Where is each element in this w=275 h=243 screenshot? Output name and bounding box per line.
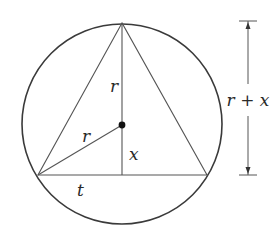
label-slant-radius: r: [82, 126, 91, 146]
arrow-down-icon: [246, 167, 251, 174]
label-half-base: t: [77, 180, 84, 200]
label-center-to-base: x: [129, 144, 139, 164]
label-upper-radius: r: [110, 76, 119, 96]
inscribed-triangle-diagram: r r x t r + x: [0, 0, 275, 243]
center-point: [119, 122, 126, 129]
label-height-dimension: r + x: [227, 90, 270, 110]
radius-line-to-left-vertex: [38, 125, 122, 175]
arrow-up-icon: [246, 22, 251, 29]
height-dimension: r + x: [227, 21, 270, 175]
